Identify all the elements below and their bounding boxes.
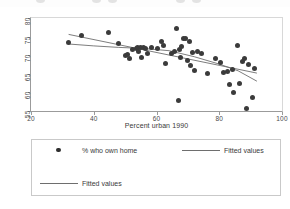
scatter-point xyxy=(179,44,184,49)
scatter-point xyxy=(145,51,150,56)
x-axis-title: Percent urban 1990 xyxy=(30,122,283,129)
legend-entry-fitted-values-1[interactable]: Fitted values xyxy=(180,145,264,155)
y-tick-label: 80 xyxy=(24,18,31,34)
legend-key-marker xyxy=(38,145,80,155)
y-tick-label: 65 xyxy=(24,73,31,89)
line-swatch-icon xyxy=(40,183,78,184)
scatter-point xyxy=(205,71,210,76)
scatter-point xyxy=(188,63,193,68)
legend-label-fitted-values-1: Fitted values xyxy=(222,147,264,154)
y-tick-label: 70 xyxy=(24,55,31,71)
legend-entry-own-home[interactable]: % who own home xyxy=(38,145,137,155)
toolbar-icon-ghost xyxy=(108,0,117,3)
legend-label-fitted-values-2: Fitted values xyxy=(80,180,122,187)
scatter-marker-icon xyxy=(56,148,61,153)
y-tick-label: 75 xyxy=(24,36,31,52)
legend-label-own-home: % who own home xyxy=(80,147,137,154)
line-swatch-icon xyxy=(182,150,220,151)
scatter-point xyxy=(252,66,257,71)
y-tick-label: 60 xyxy=(24,92,31,108)
legend-key-line xyxy=(38,178,80,188)
toolbar-icon-ghost xyxy=(92,0,101,3)
legend-key-line xyxy=(180,145,222,155)
scatter-point xyxy=(230,67,235,72)
scatter-point xyxy=(176,98,181,103)
plot-card: 20406080100 556065707580 Percent urban 1… xyxy=(6,10,284,129)
toolbar-icon-ghost xyxy=(192,0,201,3)
legend: % who own home Fitted values Fitted valu… xyxy=(31,139,281,196)
x-tick-label: 80 xyxy=(215,115,223,122)
scatter-plot-figure: 20406080100 556065707580 Percent urban 1… xyxy=(0,7,290,209)
toolbar-icon-ghost xyxy=(36,0,45,3)
scatter-point xyxy=(187,39,192,44)
x-tick-label: 100 xyxy=(276,115,287,122)
toolbar-icon-ghost xyxy=(176,0,185,3)
scatter-point xyxy=(163,61,168,66)
plot-frame xyxy=(30,17,283,112)
x-tick-label: 40 xyxy=(90,115,98,122)
scatter-point xyxy=(174,26,179,31)
fitted-lines-layer xyxy=(31,18,282,111)
legend-entry-fitted-values-2[interactable]: Fitted values xyxy=(38,178,122,188)
scatter-point xyxy=(149,45,154,50)
scatter-point xyxy=(244,106,249,111)
scatter-point xyxy=(178,55,183,60)
x-tick-label: 60 xyxy=(153,115,161,122)
plot-data-area xyxy=(31,18,282,111)
scatter-point xyxy=(246,62,251,67)
